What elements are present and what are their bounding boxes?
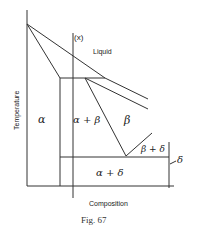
marker-label: (x) bbox=[74, 33, 84, 42]
beta-label: β bbox=[123, 114, 130, 127]
liquid-label: Liquid bbox=[93, 48, 112, 56]
alpha-delta-label: α + δ bbox=[96, 167, 124, 178]
delta-pointer bbox=[170, 161, 176, 164]
alpha-label: α bbox=[38, 113, 46, 126]
alpha-beta-label: α + β bbox=[73, 114, 100, 125]
beta-solidus-line bbox=[85, 78, 148, 109]
delta-label: δ bbox=[177, 154, 183, 165]
x-axis-label: Composition bbox=[89, 200, 128, 208]
y-axis-label: Temperature bbox=[13, 91, 21, 130]
liquidus-line bbox=[27, 24, 148, 99]
solidus-alpha-line bbox=[27, 24, 60, 78]
phase-diagram: (x) Liquid α α + β β β + δ α + δ δ Tempe… bbox=[0, 0, 197, 234]
figure-caption: Fig. 67 bbox=[81, 215, 107, 225]
beta-delta-label: β + δ bbox=[140, 144, 165, 154]
